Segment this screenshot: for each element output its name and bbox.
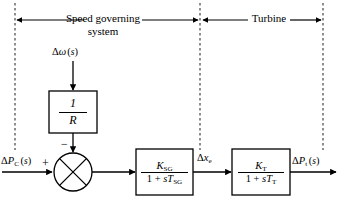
label-valve-position: Δxe	[197, 152, 212, 163]
turbine-denominator: 1 + sTT	[244, 173, 279, 185]
governor-den-prefix: 1 +	[147, 173, 163, 184]
region-label-turbine-line1: Turbine	[252, 12, 286, 24]
label-power-command: ΔPC(s)	[1, 155, 31, 167]
block-speed-governor-expression: KSG 1 + sTSG	[141, 152, 188, 192]
governor-denominator: 1 + sTSG	[145, 173, 184, 185]
delta-glyph-xe: Δ	[197, 152, 204, 163]
subscript-t: t	[305, 160, 307, 168]
region-label-speed-governing: Speed governing system	[62, 12, 144, 37]
turbine-den-prefix: 1 +	[246, 173, 262, 184]
governor-numerator: KSG	[154, 160, 174, 172]
turbine-gain-subscript: T	[262, 165, 266, 173]
region-label-turbine: Turbine	[240, 12, 298, 25]
delta-glyph: Δ	[52, 46, 59, 57]
block-turbine-expression: KT 1 + sTT	[238, 152, 284, 192]
turbine-numerator: KT	[253, 160, 268, 172]
governor-gain-subscript: SG	[163, 165, 172, 173]
region-label-line2: system	[88, 25, 119, 37]
delta-glyph-pt: Δ	[292, 155, 299, 166]
block-droop-expression: 1 R	[59, 95, 87, 129]
omega-glyph: ω	[59, 46, 66, 57]
block-diagram: Speed governing system Turbine Δω(s) 1 R…	[0, 0, 338, 206]
governor-den-subscript: SG	[173, 178, 182, 186]
delta-glyph-pc: Δ	[1, 155, 8, 166]
summing-junction-minus-sign: −	[61, 138, 68, 151]
subscript-c: C	[14, 160, 19, 168]
turbine-den-subscript: T	[272, 178, 276, 186]
subscript-e: e	[208, 157, 211, 165]
droop-denominator: R	[67, 113, 78, 129]
droop-numerator: 1	[68, 96, 78, 112]
summing-junction-plus-sign: +	[42, 157, 49, 170]
region-label-line1: Speed governing	[66, 12, 140, 24]
label-speed-deviation: Δω(s)	[52, 46, 78, 58]
label-turbine-power: ΔPt(s)	[292, 155, 319, 167]
